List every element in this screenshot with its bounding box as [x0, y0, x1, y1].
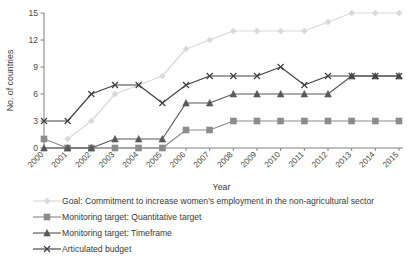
series-3	[41, 73, 403, 152]
series-layer	[41, 10, 403, 151]
x-axis-tick-label: 2013	[334, 150, 354, 170]
data-point-diamond	[207, 37, 213, 43]
data-point-cross	[183, 82, 189, 88]
data-point-square	[230, 118, 236, 124]
x-axis-tick-label: 2003	[97, 150, 117, 170]
data-point-diamond	[396, 10, 402, 16]
data-point-diamond	[372, 10, 378, 16]
x-axis-tick-label: 2002	[74, 150, 94, 170]
axis-labels: 0369121520002001200220032004200520062007…	[5, 8, 401, 192]
x-axis-tick-label: 2014	[358, 150, 378, 170]
x-axis-tick-label: 2004	[121, 150, 141, 170]
series-4	[41, 64, 402, 124]
data-point-square	[159, 145, 165, 151]
data-point-cross	[159, 100, 165, 106]
x-axis-tick-label: 2006	[168, 150, 188, 170]
series-line	[44, 121, 399, 148]
data-point-square	[278, 118, 284, 124]
x-axis-tick-label: 2005	[145, 150, 165, 170]
axis-layer	[41, 13, 404, 151]
x-axis-tick-label: 2009	[239, 150, 259, 170]
x-axis-tick-label: 2010	[263, 150, 283, 170]
data-point-square	[325, 118, 331, 124]
legend-item-4[interactable]: Articulated budget	[32, 241, 404, 257]
x-axis-tick-label: 2000	[26, 150, 46, 170]
data-point-diamond	[254, 28, 260, 34]
x-axis-title: Year	[213, 182, 231, 192]
data-point-diamond	[44, 198, 50, 204]
legend-marker-cross-icon	[32, 242, 62, 256]
x-axis-tick-label: 2011	[287, 150, 306, 169]
data-point-square	[41, 136, 47, 142]
data-point-diamond	[325, 19, 331, 25]
data-point-square	[44, 214, 50, 220]
series-line	[44, 67, 399, 121]
legend-marker-diamond-icon	[32, 194, 62, 208]
data-point-square	[254, 118, 260, 124]
data-point-square	[301, 118, 307, 124]
y-axis-tick-label: 15	[29, 8, 39, 18]
y-axis-tick-label: 9	[33, 62, 38, 72]
legend-item-2[interactable]: Monitoring target: Quantitative target	[32, 209, 404, 225]
x-axis-tick-label: 2012	[310, 150, 330, 170]
legend-marker-triangle-icon	[32, 226, 62, 240]
data-point-diamond	[349, 10, 355, 16]
chart-legend: Goal: Commitment to increase women's emp…	[32, 193, 404, 257]
series-line	[44, 76, 399, 148]
y-axis-title: No. of countries	[5, 49, 15, 111]
data-point-diamond	[278, 28, 284, 34]
chart-plot-area: 0369121520002001200220032004200520062007…	[0, 0, 407, 195]
data-point-square	[207, 127, 213, 133]
data-point-square	[372, 118, 378, 124]
x-axis-tick-label: 2007	[192, 150, 212, 170]
x-axis-tick-label: 2015	[381, 150, 401, 170]
y-axis-tick-label: 6	[33, 89, 38, 99]
data-point-square	[183, 127, 189, 133]
legend-item-3[interactable]: Monitoring target: Timeframe	[32, 225, 404, 241]
legend-marker-square-icon	[32, 210, 62, 224]
x-axis-tick-label: 2001	[50, 150, 70, 170]
data-point-square	[349, 118, 355, 124]
y-axis-tick-label: 12	[29, 35, 39, 45]
legend-item-label: Monitoring target: Quantitative target	[62, 213, 202, 222]
data-point-diamond	[301, 28, 307, 34]
legend-item-label: Monitoring target: Timeframe	[62, 229, 172, 238]
x-axis-tick-label: 2008	[216, 150, 236, 170]
data-point-cross	[88, 91, 94, 97]
data-point-diamond	[230, 28, 236, 34]
data-point-cross	[301, 82, 307, 88]
line-chart: 0369121520002001200220032004200520062007…	[0, 0, 407, 263]
legend-item-label: Goal: Commitment to increase women's emp…	[62, 197, 374, 206]
data-point-square	[136, 145, 142, 151]
legend-item-1[interactable]: Goal: Commitment to increase women's emp…	[32, 193, 404, 209]
data-point-cross	[278, 64, 284, 70]
data-point-square	[112, 145, 118, 151]
y-axis-tick-label: 3	[33, 116, 38, 126]
data-point-square	[396, 118, 402, 124]
legend-item-label: Articulated budget	[62, 245, 131, 254]
